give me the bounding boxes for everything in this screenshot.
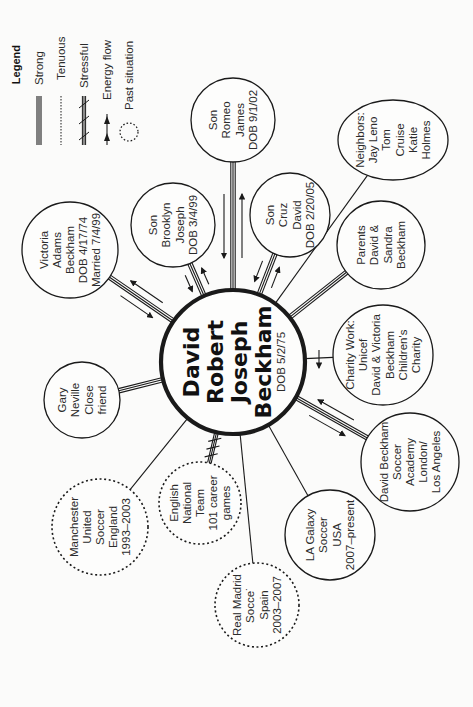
link-realmadrid-tenuous xyxy=(240,434,253,564)
legend-label: Tenuous xyxy=(55,36,67,80)
node-gary-label: GaryNevilleClosefriend xyxy=(56,383,108,418)
node-parents: ParentsDavid &SandraBeckham xyxy=(337,201,425,289)
legend-item-past: Past situation xyxy=(120,41,138,141)
center-name-line: Robert xyxy=(203,319,228,404)
node-romeo: SonRomeoJamesDOB 9/1/02 xyxy=(191,78,275,162)
center-person-node: DavidRobertJosephBeckhamDOB 5/2/75 xyxy=(161,290,305,434)
node-gary: GaryNevilleClosefriend xyxy=(44,362,120,438)
legend-label: Strong xyxy=(33,51,45,85)
link-charity-tenuous xyxy=(305,350,333,368)
legend-item-strong: Strong xyxy=(33,51,45,145)
node-victoria-label-line: Beckham xyxy=(64,226,76,274)
node-manchester-label-line: Soccer xyxy=(94,509,106,545)
legend-item-stressful: Stressful xyxy=(78,43,90,145)
node-victoria-label-line: DOB 4/17/74 xyxy=(77,216,89,283)
node-gary-label-line: Gary xyxy=(56,387,68,412)
node-neighbors-label-line: Neighbors: xyxy=(354,112,366,168)
node-cruz-label-line: Cruz xyxy=(277,203,289,228)
node-charity-label-line: Children's xyxy=(397,329,409,380)
legend-title: Legend xyxy=(10,45,22,84)
center-name-line: Joseph xyxy=(227,321,252,406)
legend-label: Past situation xyxy=(123,41,135,110)
past-situation-icon xyxy=(120,123,138,141)
node-manchester-label-line: England xyxy=(107,506,119,548)
center-name-line: David xyxy=(179,327,204,398)
node-romeo-label-line: Son xyxy=(207,110,219,130)
node-realmadrid-label-line: Real Madrid xyxy=(231,574,243,636)
node-english-label-line: English xyxy=(168,484,180,522)
node-lagalaxy: LA GalaxySoccerUSA2007–present xyxy=(285,490,375,580)
node-realmadrid-label-line: Spain xyxy=(258,590,270,619)
node-lagalaxy-label-line: LA Galaxy xyxy=(304,509,316,562)
link-parents-strong xyxy=(288,271,348,320)
node-manchester-label-line: 1993–2003 xyxy=(120,498,132,556)
energy-flow-arrow-icon xyxy=(185,275,192,291)
node-victoria: VictoriaAdamsBeckhamDOB 4/17/74Married 7… xyxy=(22,202,118,298)
node-academy-label-line: London/ xyxy=(417,440,429,482)
link-english-stressful xyxy=(205,432,222,464)
node-cruz: SonCruzDavidDOB 2/20/05 xyxy=(250,173,330,257)
link-gary-strong xyxy=(118,377,163,392)
node-charity-label-line: Charity Work: xyxy=(344,320,356,389)
node-manchester: ManchesterUnitedSoccerEngland1993–2003 xyxy=(52,479,148,575)
node-parents-label-line: Beckham xyxy=(395,221,407,269)
node-victoria-label-line: Victoria xyxy=(38,230,50,269)
node-cruz-label-line: David xyxy=(291,200,303,229)
node-parents-label-line: Parents xyxy=(355,225,367,265)
link-lagalaxy-tenuous xyxy=(268,425,308,496)
legend-label: Stressful xyxy=(78,43,90,88)
node-lagalaxy-label-line: USA xyxy=(331,523,343,547)
node-neighbors: Neighbors:Jay LenoTomCruiseKatieHolmes xyxy=(338,100,448,180)
ecomap-diagram: LegendStrongTenuousStressfulEnergy flowP… xyxy=(0,0,473,707)
node-brooklyn: SonBrooklynJosephDOB 3/4/99 xyxy=(131,183,215,267)
node-romeo-label-line: Romeo xyxy=(220,101,232,138)
node-brooklyn-label-line: Joseph xyxy=(174,206,186,243)
legend-item-tenuous: Tenuous xyxy=(55,36,67,145)
node-neighbors-label-line: Jay Leno xyxy=(367,117,379,164)
node-manchester-label-line: Manchester xyxy=(68,497,80,557)
node-brooklyn-label-line: Brooklyn xyxy=(160,203,172,248)
link-romeo-strong xyxy=(224,162,242,290)
node-gary-label-line: Close xyxy=(83,385,95,414)
node-romeo-label-line: James xyxy=(234,103,246,137)
node-charity-label-line: Charity xyxy=(410,337,422,374)
node-parents-label-line: Sandra xyxy=(382,226,394,264)
legend-item-energy: Energy flow xyxy=(101,39,113,145)
arrowhead-icon xyxy=(104,116,110,124)
node-gary-label-line: friend xyxy=(96,386,108,415)
node-realmadrid-label-line: Socce˙ xyxy=(244,587,256,623)
link-brooklyn-strong xyxy=(185,263,209,297)
link-victoria-strong xyxy=(108,275,175,323)
energy-flow-arrow-icon xyxy=(271,267,279,287)
legend: LegendStrongTenuousStressfulEnergy flowP… xyxy=(10,36,138,145)
node-romeo-label-line: DOB 9/1/02 xyxy=(247,90,259,150)
node-realmadrid-label-line: 2003–2007 xyxy=(271,576,283,634)
node-charity: Charity Work:UnicefDavid & VictoriaBeckh… xyxy=(333,305,433,405)
node-realmadrid: Real MadridSocce˙Spain2003–2007 xyxy=(215,563,299,647)
energy-flow-arrow-icon xyxy=(202,268,209,284)
node-academy-label-line: Soccer xyxy=(391,444,403,480)
node-gary-label-line: Neville xyxy=(69,383,81,418)
node-academy: David BeckhamSoccerAcademyLondon/Los Ang… xyxy=(361,413,459,511)
node-victoria-label-line: Adams xyxy=(51,232,63,268)
node-parents-label: ParentsDavid &SandraBeckham xyxy=(355,221,407,269)
node-neighbors-label-line: Holmes xyxy=(420,120,432,159)
node-academy-label-line: Academy xyxy=(404,438,416,486)
node-academy-label-line: Los Angeles xyxy=(430,430,442,493)
node-parents-label-line: David & xyxy=(368,225,380,266)
node-brooklyn-label-line: Son xyxy=(147,215,159,235)
node-english: EnglishNationalTeam101 careergames xyxy=(159,462,241,544)
link-academy-strong xyxy=(295,396,369,440)
node-neighbors-label-line: Katie xyxy=(407,127,419,153)
node-academy-label-line: David Beckham xyxy=(378,422,390,503)
energy-flow-arrow-icon xyxy=(255,261,263,281)
arrowhead-icon xyxy=(104,133,110,141)
node-english-label-line: National xyxy=(181,482,193,524)
node-neighbors-label-line: Cruise xyxy=(394,123,406,156)
legend-label: Energy flow xyxy=(101,39,113,100)
node-charity-label-line: Unicef xyxy=(357,338,369,371)
node-brooklyn-label-line: DOB 3/4/99 xyxy=(187,195,199,255)
center-name-line: Beckham xyxy=(251,306,276,419)
node-english-label-line: 101 career xyxy=(207,475,219,530)
link-cruz-strong xyxy=(255,253,280,296)
